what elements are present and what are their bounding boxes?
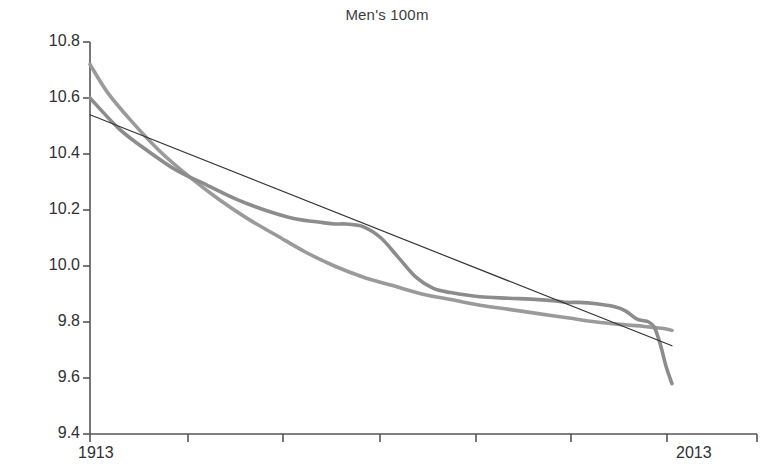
chart-container: Men's 100m Time 10.810.610.410.210.09.89… bbox=[0, 0, 774, 464]
axis-lines bbox=[83, 42, 757, 442]
series-line-linear-trend bbox=[90, 115, 672, 346]
series-lines bbox=[90, 64, 672, 383]
series-line-smooth-fit-light bbox=[90, 64, 672, 330]
series-line-smooth-fit-dark bbox=[90, 98, 672, 384]
plot-area bbox=[0, 0, 774, 464]
